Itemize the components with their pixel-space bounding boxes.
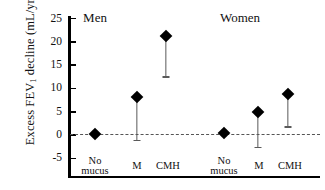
chart-figure: Excess FEV1 decline (mL/yr) 25 20 15 10 … bbox=[0, 0, 325, 190]
error-bar-cap-women-m bbox=[255, 147, 262, 148]
x-category-label-men-no-mucus-line2: mucus bbox=[65, 166, 125, 176]
error-bar-cap-women-cmh bbox=[285, 126, 292, 127]
x-category-label-men-cmh: CMH bbox=[143, 161, 193, 171]
error-bar-cap-men-m bbox=[134, 140, 141, 141]
x-category-label-women-cmh: CMH bbox=[265, 161, 315, 171]
data-point-men-cmh[interactable] bbox=[160, 29, 173, 42]
data-point-women-no-mucus[interactable] bbox=[218, 127, 231, 140]
data-point-men-no-mucus[interactable] bbox=[89, 128, 102, 141]
data-point-women-m[interactable] bbox=[252, 105, 265, 118]
x-category-label-men-no-mucus: No mucus bbox=[65, 156, 125, 176]
data-point-women-cmh[interactable] bbox=[282, 88, 295, 101]
error-bar-cap-men-cmh bbox=[163, 76, 170, 77]
group-label-men: Men bbox=[55, 10, 135, 26]
group-label-women: Women bbox=[195, 10, 285, 26]
data-point-men-m[interactable] bbox=[131, 90, 144, 103]
